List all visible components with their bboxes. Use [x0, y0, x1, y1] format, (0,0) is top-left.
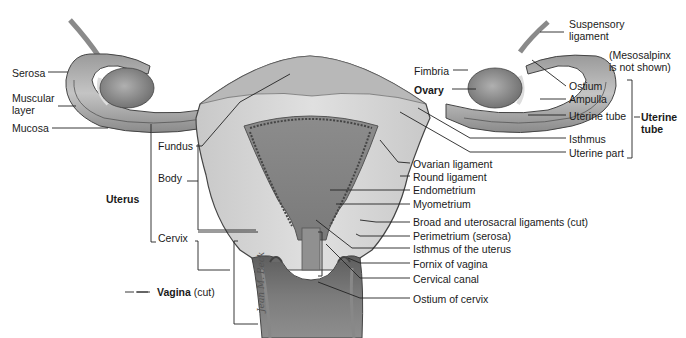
- label-suspensory-line2: ligament: [569, 30, 609, 42]
- label-uterine-part: Uterine part: [569, 147, 624, 159]
- label-perimetrium: Perimetrium (serosa): [413, 230, 511, 242]
- label-ostium: Ostium: [569, 80, 602, 92]
- label-cervical-canal: Cervical canal: [413, 273, 479, 285]
- label-ovarian-ligament: Ovarian ligament: [413, 158, 492, 170]
- artist-signature: Jean M. Beck: [256, 252, 266, 312]
- right-ovary-shape: [468, 68, 522, 108]
- label-vagina-suffix: (cut): [194, 286, 215, 298]
- label-endometrium: Endometrium: [413, 184, 475, 196]
- label-fimbria: Fimbria: [414, 65, 449, 77]
- label-mesosalpinx-line1: (Mesosalpinx: [609, 49, 671, 61]
- label-cervix: Cervix: [158, 232, 188, 244]
- label-fundus: Fundus: [158, 140, 193, 152]
- label-ampulla: Ampulla: [569, 93, 607, 105]
- label-vagina-name: Vagina: [157, 286, 191, 298]
- left-suspensory-ligament-shape: [70, 20, 100, 58]
- label-body: Body: [158, 172, 182, 184]
- left-ovary-shape: [100, 68, 154, 108]
- label-ostium-of-cervix: Ostium of cervix: [413, 293, 488, 305]
- label-ovary: Ovary: [414, 84, 444, 96]
- label-muscular-layer-line1: Muscular: [12, 92, 55, 104]
- label-vagina: Vagina (cut): [157, 286, 215, 298]
- label-mesosalpinx-line2: is not shown): [609, 61, 671, 73]
- label-uterus: Uterus: [106, 193, 139, 205]
- label-uterine-tube-part: Uterine tube: [569, 110, 626, 122]
- label-myometrium: Myometrium: [413, 198, 471, 210]
- label-suspensory-line1: Suspensory: [569, 18, 624, 30]
- label-mucosa: Mucosa: [12, 122, 49, 134]
- label-isthmus-of-uterus: Isthmus of the uterus: [413, 243, 511, 255]
- uterus-anatomy-diagram: Serosa Muscular layer Mucosa Fundus Body…: [0, 0, 686, 338]
- anatomy-illustration: [0, 0, 686, 338]
- label-uterine-tube-group-line2: tube: [641, 123, 663, 135]
- label-uterine-tube-group-line1: Uterine: [641, 111, 677, 123]
- label-isthmus: Isthmus: [569, 133, 606, 145]
- label-broad-uterosacral-ligaments: Broad and uterosacral ligaments (cut): [413, 216, 588, 228]
- label-muscular-layer-line2: layer: [12, 104, 35, 116]
- label-fornix-of-vagina: Fornix of vagina: [413, 258, 488, 270]
- label-serosa: Serosa: [12, 67, 45, 79]
- right-suspensory-ligament-shape: [520, 22, 548, 52]
- label-round-ligament: Round ligament: [413, 171, 487, 183]
